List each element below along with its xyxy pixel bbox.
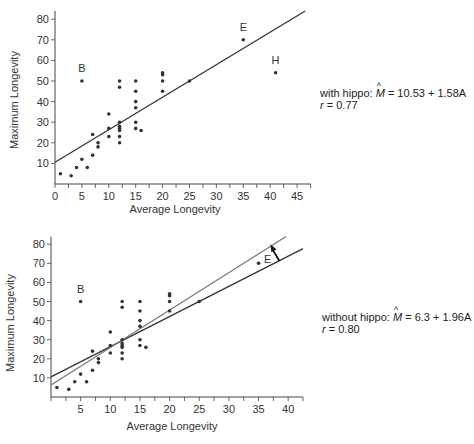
data-point — [120, 351, 124, 355]
data-point — [118, 79, 122, 83]
x-tick-label: 30 — [223, 403, 235, 415]
data-point — [168, 309, 172, 313]
data-point — [138, 319, 142, 323]
x-tick-label: 25 — [183, 190, 195, 202]
data-point — [168, 292, 172, 296]
data-point — [134, 120, 138, 124]
regression-line — [55, 11, 305, 162]
correlation-value: = 0.80 — [326, 323, 360, 335]
data-point — [91, 133, 95, 137]
data-point — [144, 346, 148, 350]
point-label-h: H — [272, 54, 280, 66]
y-tick-label: 60 — [33, 276, 45, 288]
y-tick-label: 10 — [33, 372, 45, 384]
y-tick-label: 70 — [33, 257, 45, 269]
point-label-b: B — [78, 62, 85, 74]
data-point — [118, 120, 122, 124]
x-tick-label: 25 — [193, 403, 205, 415]
chart-panel-1: 0510152025303540451020304050607080Averag… — [8, 11, 311, 215]
x-axis-title: Average Longevity — [130, 203, 221, 215]
data-point — [139, 129, 143, 133]
data-point — [118, 141, 122, 145]
data-point — [134, 106, 138, 110]
data-point — [274, 71, 278, 75]
data-point — [97, 361, 101, 365]
data-point — [168, 300, 172, 304]
data-point — [67, 388, 71, 392]
x-tick-label: 5 — [79, 190, 85, 202]
data-point — [134, 100, 138, 104]
data-point — [96, 145, 100, 149]
annotation-with-hippo: with hippo: M = 10.53 + 1.58A r = 0.77 — [320, 87, 466, 111]
data-point — [120, 338, 124, 342]
y-tick-label: 80 — [33, 238, 45, 250]
data-point — [118, 135, 122, 139]
correlation-line: r = 0.80 — [322, 323, 471, 335]
data-point — [96, 141, 100, 145]
data-point — [91, 153, 95, 157]
data-point — [120, 305, 124, 309]
x-tick-label: 0 — [52, 190, 58, 202]
data-point — [138, 309, 142, 313]
data-point — [85, 166, 89, 170]
data-point — [107, 112, 111, 116]
data-point — [80, 157, 84, 161]
m-hat-symbol: M — [376, 87, 385, 99]
x-tick-label: 15 — [130, 190, 142, 202]
x-tick-label: 45 — [291, 190, 303, 202]
data-point — [197, 300, 201, 304]
regression-equation: = 10.53 + 1.58A — [385, 87, 466, 99]
y-tick-label: 60 — [37, 54, 49, 66]
data-point — [188, 79, 192, 83]
y-tick-label: 80 — [37, 13, 49, 25]
equation-line: without hippo: M = 6.3 + 1.96A — [322, 311, 471, 323]
data-point — [109, 344, 113, 348]
data-point — [55, 386, 59, 390]
data-point — [257, 262, 261, 266]
data-point — [59, 172, 63, 176]
scatter-charts: 0510152025303540451020304050607080Averag… — [0, 0, 474, 444]
regression-line — [51, 249, 303, 377]
data-point — [118, 85, 122, 89]
x-tick-label: 35 — [252, 403, 264, 415]
data-point — [107, 127, 111, 131]
equation-line: with hippo: M = 10.53 + 1.58A — [320, 87, 466, 99]
annotation-prefix: with hippo: — [320, 87, 376, 99]
y-axis-title: Maximum Longevity — [4, 274, 16, 372]
x-tick-label: 15 — [134, 403, 146, 415]
y-tick-label: 20 — [37, 137, 49, 149]
data-point — [134, 90, 138, 94]
data-point — [134, 127, 138, 131]
correlation-value: = 0.77 — [324, 99, 358, 111]
data-point — [134, 79, 138, 83]
x-tick-label: 10 — [103, 190, 115, 202]
data-point — [91, 349, 95, 353]
y-tick-label: 40 — [33, 315, 45, 327]
m-hat-symbol: M — [393, 311, 402, 323]
data-point — [118, 125, 122, 129]
point-label-e: E — [240, 21, 247, 33]
annotation-prefix: without hippo: — [322, 311, 393, 323]
x-tick-label: 5 — [78, 403, 84, 415]
data-point — [80, 79, 84, 83]
data-point — [75, 166, 79, 170]
data-point — [97, 357, 101, 361]
x-tick-label: 20 — [156, 190, 168, 202]
y-tick-label: 50 — [37, 75, 49, 87]
y-tick-label: 70 — [37, 34, 49, 46]
data-point — [138, 338, 142, 342]
x-tick-label: 40 — [264, 190, 276, 202]
x-tick-label: 35 — [237, 190, 249, 202]
data-point — [91, 368, 95, 372]
data-point — [138, 300, 142, 304]
y-tick-label: 30 — [37, 116, 49, 128]
data-point — [120, 300, 124, 304]
data-point — [73, 380, 77, 384]
data-point — [107, 135, 111, 139]
data-point — [138, 325, 142, 329]
data-point — [85, 380, 89, 384]
y-tick-label: 10 — [37, 157, 49, 169]
regression-equation: = 6.3 + 1.96A — [402, 311, 471, 323]
y-tick-label: 30 — [33, 334, 45, 346]
data-point — [120, 357, 124, 361]
